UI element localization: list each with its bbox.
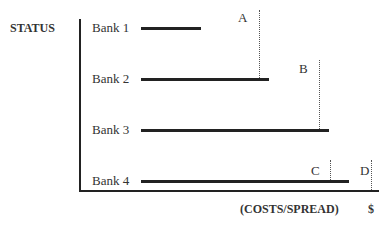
- x-axis-unit: $: [368, 202, 374, 217]
- bank-2-label: Bank 2: [92, 72, 129, 86]
- marker-a-line: [259, 10, 260, 78]
- marker-a-label: A: [238, 10, 247, 26]
- marker-d-label: D: [360, 163, 369, 179]
- marker-b-label: B: [299, 61, 308, 77]
- bank-3-label: Bank 3: [92, 123, 129, 137]
- y-axis-line: [79, 19, 81, 192]
- bank-1-label: Bank 1: [92, 21, 129, 35]
- marker-c-label: C: [311, 163, 320, 179]
- bank-1-bar: [141, 27, 201, 30]
- x-axis-line: [79, 190, 379, 192]
- y-axis-label: STATUS: [10, 21, 55, 36]
- marker-d-line: [371, 160, 372, 190]
- bank-3-bar: [141, 129, 329, 132]
- marker-b-line: [319, 60, 320, 129]
- bank-4-label: Bank 4: [92, 174, 129, 188]
- bank-4-bar: [141, 180, 349, 183]
- marker-c-line: [330, 160, 331, 180]
- x-axis-label: (COSTS/SPREAD): [240, 202, 339, 217]
- bank-2-bar: [141, 78, 269, 81]
